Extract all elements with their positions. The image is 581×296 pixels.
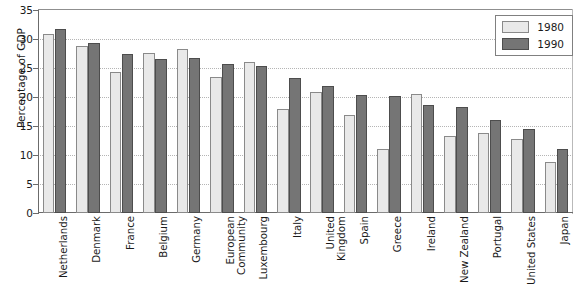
y-tick-label: 0 bbox=[0, 207, 33, 219]
legend: 1980 1990 bbox=[495, 15, 573, 56]
legend-label: 1980 bbox=[537, 21, 564, 33]
y-tick-label: 25 bbox=[0, 62, 33, 74]
bar-group bbox=[172, 10, 205, 213]
bar bbox=[277, 109, 289, 213]
bar bbox=[289, 78, 301, 213]
x-tick-label: European Community bbox=[226, 216, 247, 296]
bar bbox=[122, 54, 134, 214]
bar bbox=[244, 62, 256, 213]
y-tick-label: 35 bbox=[0, 4, 33, 16]
x-tick-label: Spain bbox=[360, 216, 371, 296]
x-tick-label: Denmark bbox=[92, 216, 103, 296]
bar-group bbox=[372, 10, 405, 213]
bar-group bbox=[138, 10, 171, 213]
bar bbox=[256, 66, 268, 213]
bar bbox=[43, 34, 55, 213]
bar bbox=[423, 105, 435, 213]
x-tick-label: Italy bbox=[293, 216, 304, 296]
legend-label: 1990 bbox=[537, 38, 564, 50]
bar bbox=[411, 94, 423, 213]
y-tick-label: 15 bbox=[0, 120, 33, 132]
y-tick-label: 30 bbox=[0, 33, 33, 45]
legend-item[interactable]: 1980 bbox=[502, 21, 564, 33]
bar bbox=[177, 49, 189, 213]
bar bbox=[143, 53, 155, 213]
bar-group bbox=[306, 10, 339, 213]
bar-group bbox=[406, 10, 439, 213]
bar bbox=[55, 29, 67, 213]
bar bbox=[88, 43, 100, 213]
bar-group bbox=[439, 10, 472, 213]
bar bbox=[356, 95, 368, 213]
bar-group bbox=[339, 10, 372, 213]
x-tick-label: Portugal bbox=[493, 216, 504, 296]
bar bbox=[344, 115, 356, 213]
bar bbox=[478, 133, 490, 213]
bar bbox=[490, 120, 502, 213]
bar bbox=[222, 64, 234, 213]
legend-swatch-1980-icon bbox=[502, 21, 529, 33]
bar bbox=[389, 96, 401, 213]
legend-item[interactable]: 1990 bbox=[502, 38, 564, 50]
bar bbox=[155, 59, 167, 213]
bar-group bbox=[38, 10, 71, 213]
bar-group bbox=[272, 10, 305, 213]
x-tick-label: Netherlands bbox=[59, 216, 70, 296]
bar bbox=[210, 77, 222, 213]
bar bbox=[545, 162, 557, 213]
bar bbox=[511, 139, 523, 213]
bar-chart: Percentage of GDP 35302520151050 Netherl… bbox=[0, 0, 581, 296]
x-tick-label: Ireland bbox=[427, 216, 438, 296]
bar-group bbox=[239, 10, 272, 213]
x-tick-label: New Zealand bbox=[460, 216, 471, 296]
bar bbox=[557, 149, 569, 213]
y-tick-label: 10 bbox=[0, 149, 33, 161]
y-tick-mark bbox=[33, 213, 39, 214]
bar bbox=[456, 107, 468, 213]
bar bbox=[322, 86, 334, 213]
bar bbox=[76, 46, 88, 213]
bar-group bbox=[205, 10, 238, 213]
x-tick-label: France bbox=[126, 216, 137, 296]
bar bbox=[310, 92, 322, 213]
x-tick-label: United Kingdom bbox=[326, 216, 347, 296]
x-tick-label: Japan bbox=[560, 216, 571, 296]
bar-group bbox=[105, 10, 138, 213]
y-tick-label: 20 bbox=[0, 91, 33, 103]
x-tick-label: United States bbox=[527, 216, 538, 296]
x-tick-label: Germany bbox=[192, 216, 203, 296]
bar bbox=[523, 129, 535, 213]
bar bbox=[189, 58, 201, 213]
bar bbox=[444, 136, 456, 213]
bars-layer bbox=[38, 10, 573, 213]
y-tick-label: 5 bbox=[0, 178, 33, 190]
x-tick-label: Greece bbox=[393, 216, 404, 296]
x-tick-label: Luxembourg bbox=[259, 216, 270, 296]
x-axis-labels: NetherlandsDenmarkFranceBelgiumGermanyEu… bbox=[38, 216, 573, 296]
x-tick-label: Belgium bbox=[159, 216, 170, 296]
bar-group bbox=[71, 10, 104, 213]
legend-swatch-1990-icon bbox=[502, 38, 529, 50]
bar bbox=[377, 149, 389, 213]
bar bbox=[110, 72, 122, 213]
